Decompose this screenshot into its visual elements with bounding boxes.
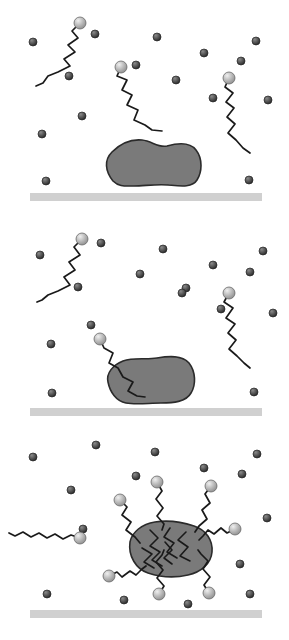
small-particle bbox=[217, 305, 225, 313]
surfactant-right bbox=[223, 287, 250, 368]
panel-2 bbox=[0, 215, 289, 430]
small-particle bbox=[132, 61, 140, 69]
surfactant-head-icon bbox=[151, 476, 163, 488]
small-particle bbox=[264, 96, 272, 104]
surfactant-head-icon bbox=[74, 17, 86, 29]
surfactant-head-icon bbox=[153, 588, 165, 600]
protein-blob bbox=[106, 140, 201, 186]
small-particle bbox=[209, 94, 217, 102]
small-particle bbox=[43, 590, 51, 598]
panel-3 bbox=[0, 430, 289, 640]
small-particle bbox=[78, 112, 86, 120]
small-particle bbox=[252, 37, 260, 45]
surfactant-upper-left bbox=[37, 233, 88, 302]
surfactant-head-icon bbox=[115, 61, 127, 73]
surfactant-head-icon bbox=[205, 480, 217, 492]
surfactant-head-icon bbox=[114, 494, 126, 506]
small-particle bbox=[97, 239, 105, 247]
small-particle bbox=[36, 251, 44, 259]
surfactant-free-left bbox=[9, 532, 86, 544]
small-particle bbox=[246, 268, 254, 276]
small-particle bbox=[200, 49, 208, 57]
small-particle bbox=[259, 247, 267, 255]
small-particle bbox=[159, 245, 167, 253]
small-particle bbox=[236, 560, 244, 568]
protein-blob bbox=[108, 357, 195, 404]
surfactant-head-icon bbox=[94, 333, 106, 345]
surfactant-head-icon bbox=[229, 523, 241, 535]
corona-surfactant-top-right bbox=[195, 480, 217, 532]
small-particle bbox=[184, 600, 192, 608]
small-particle bbox=[38, 130, 46, 138]
surfactant-head-icon bbox=[223, 72, 235, 84]
substrate-surface bbox=[30, 610, 262, 618]
small-particle bbox=[200, 464, 208, 472]
small-particle bbox=[153, 33, 161, 41]
small-particle bbox=[209, 261, 217, 269]
surfactant-head-icon bbox=[103, 570, 115, 582]
small-particle bbox=[65, 72, 73, 80]
substrate-surface bbox=[30, 193, 262, 201]
small-particle bbox=[136, 270, 144, 278]
small-particle bbox=[172, 76, 180, 84]
small-particle bbox=[178, 289, 186, 297]
small-particle bbox=[91, 30, 99, 38]
surfactant-protein-removal-figure bbox=[0, 0, 289, 640]
small-particle bbox=[250, 388, 258, 396]
surfactant-head-icon bbox=[203, 587, 215, 599]
small-particle bbox=[245, 176, 253, 184]
small-particle bbox=[87, 321, 95, 329]
surfactant-head-icon bbox=[76, 233, 88, 245]
small-particle bbox=[269, 309, 277, 317]
small-particle bbox=[42, 177, 50, 185]
small-particle bbox=[47, 340, 55, 348]
small-particle bbox=[74, 283, 82, 291]
small-particle bbox=[253, 450, 261, 458]
substrate-surface bbox=[30, 408, 262, 416]
surfactant-upper-left bbox=[36, 17, 86, 86]
small-particle bbox=[246, 590, 254, 598]
small-particle bbox=[132, 472, 140, 480]
surfactant-right bbox=[223, 72, 250, 153]
small-particle bbox=[263, 514, 271, 522]
surfactant-middle bbox=[115, 61, 162, 131]
small-particle bbox=[67, 486, 75, 494]
small-particle bbox=[29, 453, 37, 461]
small-particle bbox=[238, 470, 246, 478]
panel-1 bbox=[0, 0, 289, 215]
small-particle bbox=[237, 57, 245, 65]
small-particle bbox=[120, 596, 128, 604]
small-particle bbox=[151, 448, 159, 456]
small-particle bbox=[92, 441, 100, 449]
surfactant-head-icon bbox=[74, 532, 86, 544]
small-particle bbox=[48, 389, 56, 397]
small-particle bbox=[29, 38, 37, 46]
surfactant-head-icon bbox=[223, 287, 235, 299]
